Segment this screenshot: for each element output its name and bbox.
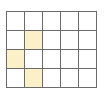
grid-cell-r0-c3	[61, 12, 79, 31]
grid-cell-r3-c2	[43, 69, 61, 88]
grid-cell-r0-c0	[7, 12, 25, 31]
grid-cell-r2-c4	[79, 50, 97, 69]
grid-cell-r3-c3	[61, 69, 79, 88]
highlighted-cell-r1-c1	[25, 31, 43, 50]
grid-cell-r0-c4	[79, 12, 97, 31]
grid-cell-r1-c3	[61, 31, 79, 50]
grid-cell-r0-c1	[25, 12, 43, 31]
grid-cell-r1-c2	[43, 31, 61, 50]
grid-cell-r3-c4	[79, 69, 97, 88]
highlighted-cell-r2-c0	[7, 50, 25, 69]
grid-cell-r2-c3	[61, 50, 79, 69]
grid-cell-r0-c2	[43, 12, 61, 31]
grid-cell-r1-c4	[79, 31, 97, 50]
grid-cell-r3-c0	[7, 69, 25, 88]
grid-cell-r2-c1	[25, 50, 43, 69]
grid-cell-r1-c0	[7, 31, 25, 50]
highlighted-cell-r3-c1	[25, 69, 43, 88]
grid-cell-r2-c2	[43, 50, 61, 69]
grid-diagram	[6, 11, 97, 88]
